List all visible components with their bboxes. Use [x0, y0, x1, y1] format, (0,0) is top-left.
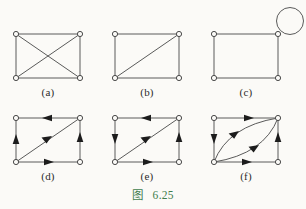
arrowhead-top-left: [141, 115, 151, 122]
vertex-bottom-left: [211, 159, 216, 164]
arrowhead-bottom-right: [242, 159, 252, 166]
panel-label-a: (a): [8, 86, 88, 98]
vertex-bottom-left: [112, 75, 117, 80]
vertex-top-right: [77, 31, 82, 36]
vertex-top-right: [275, 115, 280, 120]
arrowhead-arc-lower: [249, 145, 260, 153]
graph-panel-e: (e): [107, 112, 187, 182]
panel-label-e: (e): [107, 170, 187, 182]
graph-d-drawing: [8, 112, 88, 168]
edge-diagonal-bl-tr: [115, 34, 179, 78]
arrowhead-top-left: [42, 115, 52, 122]
arrowhead-bottom-right: [143, 159, 153, 166]
edge-self-loop: [277, 8, 304, 35]
vertex-top-left: [211, 31, 216, 36]
graph-e-drawing: [107, 112, 187, 168]
vertex-bottom-right: [176, 75, 181, 80]
figure-caption: 图6.25: [0, 186, 306, 202]
vertex-bottom-right: [77, 159, 82, 164]
graph-panel-c: (c): [206, 28, 286, 98]
vertex-top-left: [13, 31, 18, 36]
panel-label-c: (c): [206, 86, 286, 98]
arrowhead-right-up: [77, 132, 84, 142]
vertex-top-left: [112, 31, 117, 36]
graph-panel-f: (f): [206, 112, 286, 182]
vertex-top-right: [275, 31, 280, 36]
vertex-bottom-left: [13, 75, 18, 80]
graph-panel-d: (d): [8, 112, 88, 182]
caption-prefix: 图: [132, 189, 144, 201]
vertex-top-left: [13, 115, 18, 120]
graph-a-drawing: [8, 28, 88, 84]
edge-arc-upper: [214, 118, 278, 162]
panel-label-d: (d): [8, 170, 88, 182]
vertex-bottom-right: [275, 159, 280, 164]
arrowhead-right-up: [176, 132, 183, 142]
graph-panel-a: (a): [8, 28, 88, 98]
arrowhead-left-up: [13, 134, 20, 144]
arrowhead-right-up: [275, 132, 282, 142]
vertex-top-left: [112, 115, 117, 120]
arrowhead-diagonal-up-right: [42, 136, 53, 144]
graph-c-drawing: [206, 28, 304, 84]
edge-arc-lower: [214, 118, 278, 162]
vertex-bottom-left: [112, 159, 117, 164]
graph-f-drawing: [206, 112, 286, 168]
arrowhead-bottom-right: [44, 159, 54, 166]
vertex-bottom-right: [77, 75, 82, 80]
vertex-bottom-right: [275, 75, 280, 80]
vertex-top-left: [211, 115, 216, 120]
arrowhead-left-down: [112, 134, 119, 144]
graph-b-drawing: [107, 28, 187, 84]
panel-label-f: (f): [206, 170, 286, 182]
vertex-bottom-right: [176, 159, 181, 164]
vertex-top-right: [77, 115, 82, 120]
vertex-top-right: [176, 31, 181, 36]
graph-panel-b: (b): [107, 28, 187, 98]
arrowhead-top-right: [244, 115, 254, 122]
vertex-top-right: [176, 115, 181, 120]
arrowhead-diagonal-up-right: [141, 136, 152, 144]
vertex-bottom-left: [13, 159, 18, 164]
caption-number: 6.25: [153, 189, 174, 201]
figure-container: (a) (b) (c): [0, 0, 306, 209]
panel-label-b: (b): [107, 86, 187, 98]
arrowhead-arc-upper: [229, 131, 239, 139]
arrowhead-left-down: [211, 134, 218, 144]
vertex-bottom-left: [211, 75, 216, 80]
